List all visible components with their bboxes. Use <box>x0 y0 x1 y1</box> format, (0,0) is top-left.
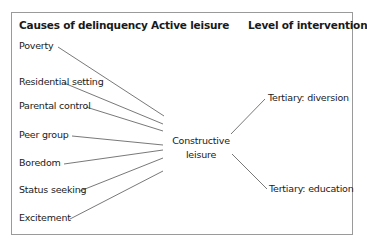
cause-status-seeking: Status seeking <box>19 184 86 195</box>
center-node-constructive-leisure: Constructive leisure <box>168 134 234 162</box>
cause-peer-group: Peer group <box>19 129 69 140</box>
line-excitement <box>70 171 163 219</box>
line-education <box>232 154 267 189</box>
center-line2: leisure <box>168 148 234 162</box>
line-diversion <box>231 99 265 134</box>
line-peer <box>72 136 163 145</box>
cause-boredom: Boredom <box>19 157 61 168</box>
line-boredom <box>64 150 163 164</box>
cause-residential-setting: Residential setting <box>19 76 103 87</box>
intervention-diversion: Tertiary: diversion <box>268 92 349 103</box>
cause-parental-control: Parental control <box>19 100 91 111</box>
line-status <box>80 158 163 191</box>
cause-excitement: Excitement <box>19 212 71 223</box>
center-line1: Constructive <box>168 134 234 148</box>
intervention-education: Tertiary: education <box>269 183 354 194</box>
connector-lines <box>0 0 367 248</box>
cause-poverty: Poverty <box>19 40 54 51</box>
